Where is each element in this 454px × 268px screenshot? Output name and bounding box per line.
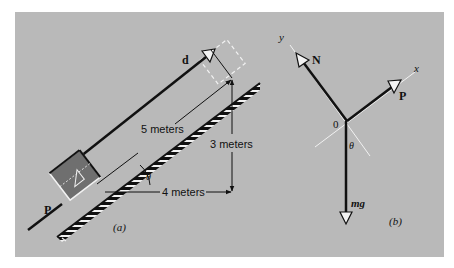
figure-a-inclined-plane: 4 meters 3 meters 5 meters θ d	[28, 40, 260, 242]
displacement-arrow: d	[62, 49, 232, 174]
x-axis-label: x	[413, 62, 419, 74]
hypotenuse-label: 5 meters	[141, 123, 184, 135]
angle-label-a: θ	[146, 171, 151, 182]
displacement-label: d	[182, 53, 189, 67]
normal-label: N	[312, 53, 321, 67]
force-label-a: P	[44, 203, 51, 217]
horizontal-label: 4 meters	[162, 186, 205, 198]
caption-b: (b)	[389, 215, 402, 228]
vertical-label: 3 meters	[210, 138, 253, 150]
normal-arrowhead-icon	[296, 53, 309, 67]
caption-a: (a)	[113, 221, 126, 234]
dashed-final-block	[200, 40, 245, 84]
weight-label: mg	[351, 197, 366, 209]
normal-force-line	[303, 62, 347, 121]
weight-arrowhead-icon	[340, 212, 352, 224]
figure-b-free-body-diagram: y x N P mg 0 θ (b)	[278, 31, 419, 228]
origin-label: 0	[333, 118, 339, 130]
force-label-b: P	[399, 89, 406, 103]
hypotenuse-dimension: 5 meters	[97, 80, 231, 184]
y-axis-label: y	[278, 31, 284, 43]
angle-label-b: θ	[349, 140, 354, 151]
block	[49, 150, 100, 200]
x-axis	[315, 72, 415, 147]
applied-force-line-b	[347, 87, 392, 121]
diagram-canvas: 4 meters 3 meters 5 meters θ d	[0, 0, 454, 268]
